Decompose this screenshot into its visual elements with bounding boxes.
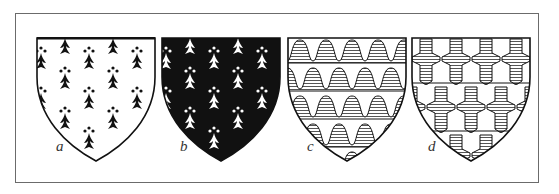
panel-label-d: d <box>428 138 436 155</box>
panel-label-b: b <box>180 138 188 155</box>
shield-a-ermine <box>36 37 156 163</box>
panel-label-a: a <box>56 138 64 155</box>
panel-label-c: c <box>307 138 314 155</box>
shield-c-vair <box>287 37 407 163</box>
shield-b-ermines <box>161 37 281 163</box>
